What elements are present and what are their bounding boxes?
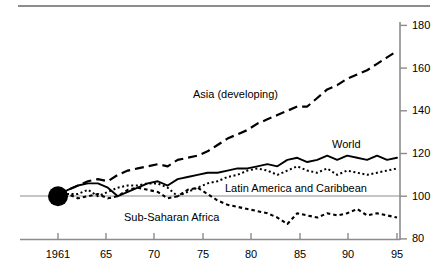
y-tick-label-80: 80 xyxy=(412,233,424,244)
chart-plot-area xyxy=(0,0,442,269)
x-tick-label-85: 85 xyxy=(285,249,315,260)
x-tick-label-1961: 1961 xyxy=(38,249,78,260)
y-axis-ticks xyxy=(400,25,407,239)
y-tick-label-100: 100 xyxy=(412,191,430,202)
series-label-asia-developing: Asia (developing) xyxy=(193,88,278,100)
x-tick-label-80: 80 xyxy=(236,249,266,260)
series-label-sub-saharan-africa: Sub-Saharan Africa xyxy=(124,211,219,223)
series-label-latin-america-and-caribbean: Latin America and Caribbean xyxy=(225,182,367,194)
x-tick-label-65: 65 xyxy=(91,249,121,260)
x-tick-label-70: 70 xyxy=(139,249,169,260)
series-label-world: World xyxy=(332,138,361,150)
origin-marker-dot xyxy=(48,186,68,206)
y-tick-label-120: 120 xyxy=(412,148,430,159)
series-line-asia-developing xyxy=(58,51,397,196)
chart-container: 180 160 140 120 100 80 1961 65 70 75 80 … xyxy=(0,0,442,269)
x-tick-label-95: 95 xyxy=(382,249,412,260)
y-tick-label-180: 180 xyxy=(412,20,430,31)
x-tick-label-75: 75 xyxy=(188,249,218,260)
y-tick-label-140: 140 xyxy=(412,105,430,116)
y-tick-label-160: 160 xyxy=(412,63,430,74)
x-tick-label-90: 90 xyxy=(333,249,363,260)
